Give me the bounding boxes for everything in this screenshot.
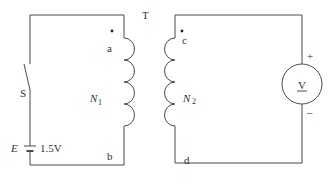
primary-winding-subscript: 1: [98, 98, 102, 107]
secondary-bottom-wire: [175, 104, 302, 163]
voltmeter-label: V: [298, 79, 306, 91]
primary-top-wire: [30, 15, 124, 64]
secondary-polarity-dot: [181, 30, 184, 33]
terminal-a-label: a: [107, 42, 112, 54]
primary-coil: [124, 38, 135, 126]
transformer-label: T: [142, 9, 149, 21]
primary-winding-label: N: [89, 92, 98, 104]
terminal-d-label: d: [184, 154, 190, 166]
switch-label: S: [20, 87, 26, 99]
primary-polarity-dot: [111, 30, 114, 33]
secondary-winding-label: N: [182, 92, 191, 104]
secondary-top-wire: [175, 15, 302, 64]
source-value: 1.5V: [40, 142, 62, 154]
secondary-coil: [165, 38, 176, 126]
terminal-c-label: c: [182, 34, 187, 46]
meter-minus-label: –: [306, 106, 313, 118]
secondary-winding-subscript: 2: [192, 97, 196, 106]
battery-icon: [24, 146, 36, 151]
terminal-b-label: b: [107, 150, 113, 162]
transformer-circuit-diagram: T a b c d S N 1 N 2 E 1.5V + – V: [0, 0, 328, 190]
source-label: E: [10, 142, 18, 154]
meter-plus-label: +: [307, 50, 313, 62]
